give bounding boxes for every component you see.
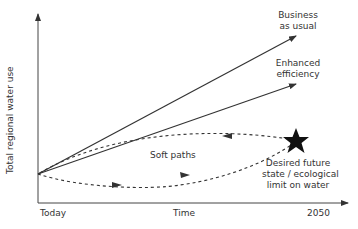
soft-paths-label: Soft paths [150, 150, 196, 161]
target-label: Desired future state / ecological limit … [262, 158, 334, 191]
star-icon [283, 128, 309, 153]
business-as-usual-label: Business as usual [268, 10, 328, 32]
y-axis-label: Total regional water use [5, 66, 15, 174]
x-label-2050: 2050 [307, 208, 330, 219]
diagram-canvas [0, 0, 358, 229]
x-label-time: Time [173, 208, 195, 219]
x-label-today: Today [40, 208, 66, 219]
soft-path-lower-arrow-2 [180, 172, 190, 178]
enhanced-efficiency-label: Enhanced efficiency [268, 58, 328, 80]
